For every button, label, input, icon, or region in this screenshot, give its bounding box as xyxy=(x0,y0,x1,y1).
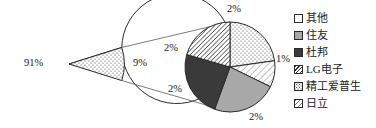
chart-legend: 其他 住友 杜邦 LG电子 精工爱普生 日立 xyxy=(294,10,376,122)
legend-label-lg-electronics: LG电子 xyxy=(306,61,343,78)
legend-swatch-dupont-icon xyxy=(294,48,303,57)
legend-label-sumitomo: 住友 xyxy=(306,27,328,44)
detail-label-hitachi: 1% xyxy=(276,53,290,64)
legend-item-dupont[interactable]: 杜邦 xyxy=(294,44,376,61)
legend-swatch-other-icon xyxy=(294,14,303,23)
detail-label-sumitomo: 2% xyxy=(249,111,263,122)
main-pie-label-9: 9% xyxy=(133,57,147,68)
legend-item-sumitomo[interactable]: 住友 xyxy=(294,27,376,44)
legend-item-seiko-epson[interactable]: 精工爱普生 xyxy=(294,78,376,95)
detail-label-dupont: 2% xyxy=(168,83,182,94)
legend-swatch-lg-electronics-icon xyxy=(294,65,303,74)
detail-slice-seiko-epson xyxy=(230,22,275,67)
detail-pie-group xyxy=(185,22,275,112)
pie-of-pie-chart: 91% 9% 2% 2% 1% 2% 2% 其他 住友 杜邦 LG电子 精工爱普… xyxy=(0,0,376,128)
legend-swatch-hitachi-icon xyxy=(294,99,303,108)
main-slice-expanded-9 xyxy=(69,47,124,80)
legend-label-hitachi: 日立 xyxy=(306,95,328,112)
legend-label-dupont: 杜邦 xyxy=(306,44,328,61)
legend-swatch-seiko-epson-icon xyxy=(294,82,303,91)
legend-label-other: 其他 xyxy=(306,10,328,27)
legend-item-lg-electronics[interactable]: LG电子 xyxy=(294,61,376,78)
main-pie-label-91: 91% xyxy=(24,57,43,68)
detail-label-seiko-epson: 2% xyxy=(227,3,241,14)
legend-label-seiko-epson: 精工爱普生 xyxy=(306,78,361,95)
legend-swatch-sumitomo-icon xyxy=(294,31,303,40)
detail-label-lg-electronics: 2% xyxy=(164,42,178,53)
legend-item-hitachi[interactable]: 日立 xyxy=(294,95,376,112)
legend-item-other[interactable]: 其他 xyxy=(294,10,376,27)
